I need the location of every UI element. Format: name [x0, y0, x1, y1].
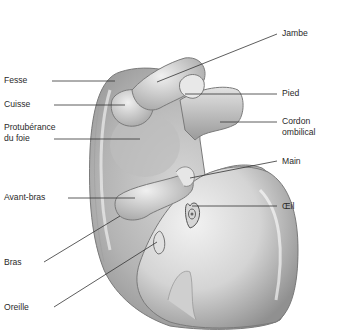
label-pied: Pied — [282, 88, 299, 99]
label-oeil: Œil — [282, 201, 294, 212]
label-oreille: Oreille — [4, 302, 29, 313]
label-protuberance: Protubérance — [4, 122, 56, 133]
foot — [179, 75, 204, 99]
label-bras: Bras — [4, 257, 22, 268]
label-cuisse: Cuisse — [4, 99, 30, 110]
label-fesse: Fesse — [4, 75, 27, 86]
label-avant-bras: Avant-bras — [4, 192, 45, 203]
label-du-foie: du foie — [4, 133, 30, 144]
label-main: Main — [282, 156, 301, 167]
label-jambe: Jambe — [282, 28, 308, 39]
embryo-diagram: Fesse Cuisse Protubérance du foie Avant-… — [0, 0, 341, 332]
leader-jambe — [157, 34, 277, 82]
label-ombilical: ombilical — [282, 127, 315, 138]
label-cordon: Cordon — [282, 116, 310, 127]
ear — [154, 231, 165, 254]
